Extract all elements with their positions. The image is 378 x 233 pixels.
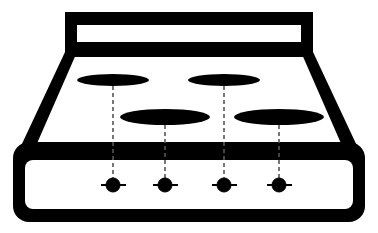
- stove-cooktop-icon: [0, 0, 378, 233]
- backsplash: [65, 12, 313, 57]
- burners: [77, 74, 324, 125]
- burner-front-left: [120, 109, 210, 125]
- burner-front-right: [234, 109, 324, 125]
- control-panel: [13, 142, 365, 222]
- burner-back-right: [188, 74, 260, 86]
- burner-back-left: [77, 74, 149, 86]
- cooktop-surface: [20, 52, 358, 148]
